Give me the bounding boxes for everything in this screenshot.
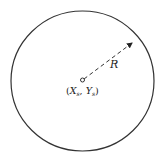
- radius-label: R: [109, 58, 118, 71]
- center-label: (Xs, Ys): [66, 85, 99, 97]
- radius-line: [84, 43, 132, 79]
- center-point: [81, 78, 85, 82]
- center-close-paren: ): [95, 85, 99, 96]
- circle-diagram: R (Xs, Ys): [0, 0, 164, 161]
